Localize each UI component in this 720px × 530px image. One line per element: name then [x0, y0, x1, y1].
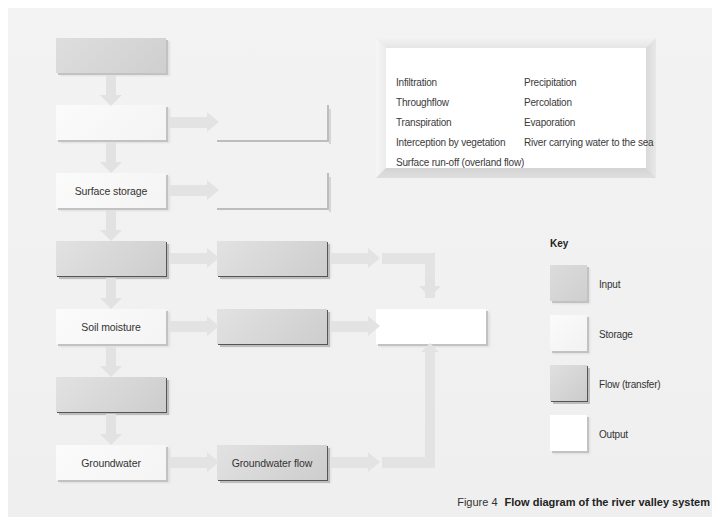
figure-number: Figure 4	[457, 496, 497, 508]
key-swatch-flow	[550, 365, 587, 401]
flow-box-groundwater-flow[interactable]: Groundwater flow	[217, 445, 327, 480]
key-label-storage: Storage	[599, 329, 633, 340]
word-evaporation[interactable]: Evaporation	[524, 113, 653, 133]
arrow-right-icon	[169, 181, 219, 199]
arrow-up-icon	[421, 343, 439, 352]
word-precipitation[interactable]: Precipitation	[524, 73, 653, 93]
key-label-output: Output	[599, 429, 628, 440]
input-box-precipitation[interactable]	[56, 38, 166, 73]
output-box-river[interactable]	[376, 309, 486, 344]
arrow-down-icon	[104, 142, 118, 174]
word-interception[interactable]: Interception by vegetation	[396, 133, 524, 153]
key-title: Key	[550, 238, 568, 249]
arrow-right-icon	[169, 317, 219, 335]
word-throughflow[interactable]: Throughflow	[396, 93, 524, 113]
figure-caption: Figure 4 Flow diagram of the river valle…	[457, 496, 710, 508]
word-percolation[interactable]: Percolation	[524, 93, 653, 113]
word-surface-runoff[interactable]: Surface run-off (overland flow)	[396, 153, 524, 173]
arrow-down-icon	[423, 278, 437, 310]
arrow-down-icon	[104, 210, 118, 242]
output-box-evaporation[interactable]	[217, 173, 329, 210]
flow-box-throughflow[interactable]	[217, 309, 327, 344]
key-swatch-output	[550, 415, 587, 451]
connector-pipe	[425, 346, 435, 468]
word-infiltration[interactable]: Infiltration	[396, 73, 524, 93]
arrow-down-icon	[104, 346, 118, 378]
arrow-right-icon	[169, 249, 219, 267]
flow-box-percolation[interactable]	[56, 377, 166, 412]
arrow-right-icon	[330, 249, 380, 267]
word-transpiration[interactable]: Transpiration	[396, 113, 524, 133]
arrow-right-icon	[169, 113, 219, 131]
output-box-transpiration[interactable]	[217, 105, 329, 142]
arrow-down-icon	[104, 414, 118, 446]
arrow-right-icon	[169, 453, 219, 471]
storage-box-groundwater[interactable]: Groundwater	[56, 445, 166, 480]
key-swatch-input	[550, 265, 587, 301]
arrow-right-icon	[330, 453, 380, 471]
key-swatch-storage	[550, 315, 587, 351]
flow-box-infiltration[interactable]	[56, 241, 166, 276]
flow-box-surface-runoff[interactable]	[217, 241, 327, 276]
figure-title: Flow diagram of the river valley system	[505, 496, 710, 508]
arrow-right-icon	[330, 317, 380, 335]
storage-box-surface-storage[interactable]: Surface storage	[56, 173, 166, 208]
key-label-input: Input	[599, 279, 620, 290]
word-river[interactable]: River carrying water to the sea	[524, 133, 653, 153]
key-label-flow: Flow (transfer)	[599, 379, 660, 390]
storage-box-soil-moisture[interactable]: Soil moisture	[56, 309, 166, 344]
storage-box-interception[interactable]	[56, 105, 166, 140]
word-bank: Infiltration Throughflow Transpiration I…	[376, 38, 656, 178]
arrow-down-icon	[104, 278, 118, 310]
arrow-down-icon	[104, 75, 118, 107]
